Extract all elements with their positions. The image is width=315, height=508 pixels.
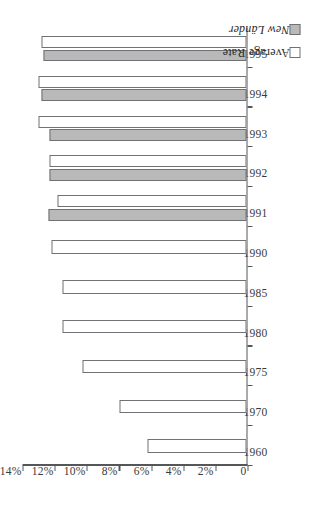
category-tick: 1994: [247, 106, 252, 107]
category-tick: 1991: [247, 226, 252, 227]
category-tick: 1975: [247, 385, 252, 386]
bar-new-laender: [49, 169, 245, 181]
value-tick-label: 4%: [166, 465, 184, 477]
category-tick-label: 1960: [243, 446, 267, 458]
bar-average-rate: [62, 320, 245, 334]
bar-average-rate: [38, 116, 245, 128]
rotated-chart-container: 02%4%6%8%10%12%14% 196019701975198019851…: [0, 0, 315, 508]
category-tick-label: 1970: [243, 406, 267, 418]
value-tick-label: 10%: [63, 465, 87, 477]
bar-group: [21, 426, 246, 466]
legend-label: New Länder: [228, 22, 289, 37]
category-tick-label: 1992: [243, 167, 267, 179]
value-tick-label: 0: [240, 465, 248, 477]
category-tick-label: 1980: [243, 327, 267, 339]
value-tick-label: 6%: [133, 465, 151, 477]
category-tick: 1995: [247, 67, 252, 68]
value-tick-label: 12%: [31, 465, 55, 477]
plot-frame: 02%4%6%8%10%12%14% 196019701975198019851…: [22, 28, 247, 466]
legend-swatch: [289, 24, 300, 35]
value-tick: 14%: [22, 466, 23, 471]
bar-group: [21, 147, 246, 187]
bar-average-rate: [119, 400, 246, 414]
category-tick-label: 1975: [243, 366, 267, 378]
bar-group: [21, 307, 246, 347]
bar-group: [21, 347, 246, 387]
value-tick: 0: [247, 466, 248, 471]
legend-item: New Länder: [228, 22, 305, 37]
value-tick-label: 8%: [101, 465, 119, 477]
category-tick: 1970: [247, 425, 252, 426]
category-tick-label: 1990: [243, 247, 267, 259]
value-tick: 12%: [54, 466, 55, 471]
category-tick: 1960: [247, 465, 252, 466]
bar-group: [21, 267, 246, 307]
bar-average-rate: [38, 76, 245, 88]
category-tick: 1985: [247, 306, 252, 307]
legend-item: Average Rate: [222, 45, 305, 60]
bar-average-rate: [49, 155, 246, 167]
category-tick: 1992: [247, 186, 252, 187]
bar-group: [21, 187, 246, 227]
bar-new-laender: [41, 89, 245, 101]
bar-group: [21, 108, 246, 148]
category-tick: 1993: [247, 146, 252, 147]
bar-average-rate: [57, 195, 245, 207]
chart-plot-area: 02%4%6%8%10%12%14% 196019701975198019851…: [0, 0, 315, 508]
value-tick: 8%: [118, 466, 119, 471]
bar-new-laender: [49, 129, 245, 141]
value-tick: 2%: [215, 466, 216, 471]
category-tick: 1990: [247, 266, 252, 267]
value-tick: 4%: [183, 466, 184, 471]
bar-group: [21, 386, 246, 426]
legend-swatch: [289, 47, 300, 58]
bar-group: [21, 68, 246, 108]
chart-legend: Average RateNew Länder: [187, 8, 305, 60]
legend-label: Average Rate: [222, 45, 289, 60]
value-tick: 6%: [151, 466, 152, 471]
category-tick: 1980: [247, 345, 252, 346]
bar-new-laender: [48, 209, 246, 221]
bar-average-rate: [147, 439, 245, 453]
value-tick-label: 2%: [198, 465, 216, 477]
bar-average-rate: [51, 240, 245, 254]
value-tick-label: 14%: [0, 465, 23, 477]
bar-group: [21, 227, 246, 267]
bar-average-rate: [62, 280, 245, 294]
bar-average-rate: [82, 360, 246, 374]
category-tick-label: 1991: [243, 207, 267, 219]
category-tick-label: 1994: [243, 88, 267, 100]
category-tick-label: 1985: [243, 287, 267, 299]
category-tick-label: 1993: [243, 128, 267, 140]
value-tick: 10%: [86, 466, 87, 471]
